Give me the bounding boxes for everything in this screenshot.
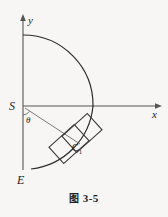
angle-label-theta: θ (26, 115, 31, 125)
figure-container: y x S E θ C1 图3-5 (0, 0, 168, 217)
y-axis-arrowhead (20, 14, 26, 21)
y-axis-label: y (27, 14, 33, 26)
figure-drawing: y x S E θ C1 (0, 0, 168, 217)
origin-label-s: S (9, 99, 15, 113)
body-center-label: C1 (72, 142, 83, 156)
caption-prefix: 图 (69, 193, 80, 204)
caption-number: 3-5 (83, 192, 99, 204)
x-axis-label: x (151, 108, 157, 120)
body-center-subscript: 1 (79, 148, 83, 156)
endpoint-label-e: E (16, 173, 25, 187)
figure-caption: 图3-5 (0, 190, 168, 205)
trajectory-arc (23, 35, 93, 169)
